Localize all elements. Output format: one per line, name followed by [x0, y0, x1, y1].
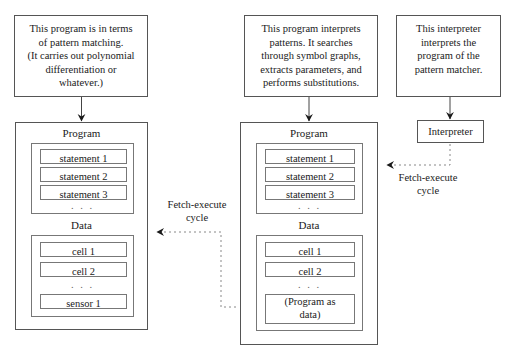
- left-data-group: cell 1 cell 2 . . . sensor 1: [31, 235, 134, 317]
- left-program-ellipsis: . . .: [32, 200, 133, 211]
- note-left-line-3: (It carries out polynomial: [20, 49, 142, 63]
- left-statement-2: statement 2: [40, 167, 127, 182]
- note-right-line-2: interprets the: [402, 36, 495, 50]
- machine-middle: Program statement 1 statement 2 statemen…: [240, 122, 378, 345]
- interpreter-box: Interpreter: [417, 120, 484, 143]
- note-box-right-interpreter: This interpreter interprets the program …: [396, 15, 501, 97]
- fetch-execute-cycle-label-left: Fetch-execute cycle: [155, 198, 239, 224]
- middle-program-label: Program: [241, 127, 377, 140]
- note-left-line-2: of pattern matching.: [20, 36, 142, 50]
- left-cell-1: cell 1: [40, 242, 127, 257]
- note-box-middle-interpreter: This program interprets patterns. It sea…: [244, 15, 378, 97]
- machine-left: Program statement 1 statement 2 statemen…: [15, 122, 148, 330]
- middle-program-as-data-line-1: (Program as: [266, 296, 354, 309]
- left-statement-3: statement 3: [40, 185, 127, 200]
- left-statement-1: statement 1: [40, 149, 127, 164]
- note-middle-line-5: performs substitutions.: [250, 76, 372, 90]
- note-left-line-5: whatever.): [20, 76, 142, 90]
- middle-statement-3: statement 3: [265, 185, 355, 200]
- left-program-group: statement 1 statement 2 statement 3 . . …: [31, 143, 134, 214]
- left-sensor-1: sensor 1: [40, 294, 127, 309]
- diagram-canvas: This program is in terms of pattern matc…: [0, 0, 517, 357]
- middle-data-group: cell 1 cell 2 . . . (Program as data): [256, 235, 363, 331]
- cycle-left-line-2: cycle: [155, 211, 239, 224]
- cycle-left-line-1: Fetch-execute: [155, 198, 239, 211]
- fetch-execute-path-right: [387, 144, 450, 165]
- middle-program-group: statement 1 statement 2 statement 3 . . …: [256, 143, 363, 214]
- middle-data-ellipsis: . . .: [257, 279, 362, 290]
- left-cell-2: cell 2: [40, 262, 127, 277]
- note-left-line-4: differentiation or: [20, 63, 142, 77]
- note-left-line-1: This program is in terms: [20, 22, 142, 36]
- note-middle-line-4: extracts parameters, and: [250, 63, 372, 77]
- middle-program-as-data-line-2: data): [266, 309, 354, 322]
- note-middle-line-3: through symbol graphs,: [250, 49, 372, 63]
- cycle-right-line-1: Fetch-execute: [386, 171, 470, 184]
- middle-cell-2: cell 2: [265, 262, 355, 277]
- note-right-line-3: program of the: [402, 49, 495, 63]
- middle-program-ellipsis: . . .: [257, 200, 362, 211]
- note-box-left-program: This program is in terms of pattern matc…: [14, 15, 148, 97]
- note-right-line-1: This interpreter: [402, 22, 495, 36]
- middle-data-label: Data: [241, 219, 377, 232]
- cycle-right-line-2: cycle: [386, 184, 470, 197]
- left-program-label: Program: [16, 127, 147, 140]
- left-data-label: Data: [16, 219, 147, 232]
- middle-statement-1: statement 1: [265, 149, 355, 164]
- fetch-execute-cycle-label-right: Fetch-execute cycle: [386, 171, 470, 197]
- note-right-line-4: pattern matcher.: [402, 63, 495, 77]
- middle-program-as-data: (Program as data): [265, 294, 355, 324]
- left-data-ellipsis: . . .: [32, 279, 133, 290]
- note-middle-line-1: This program interprets: [250, 22, 372, 36]
- middle-cell-1: cell 1: [265, 242, 355, 257]
- fetch-execute-path-left: [157, 232, 236, 307]
- note-middle-line-2: patterns. It searches: [250, 36, 372, 50]
- middle-statement-2: statement 2: [265, 167, 355, 182]
